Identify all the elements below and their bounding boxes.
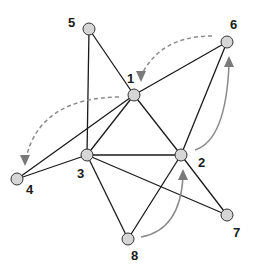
node-label-7: 7 bbox=[233, 225, 240, 240]
nodes-layer bbox=[11, 23, 233, 245]
edge-1-3 bbox=[87, 95, 134, 155]
arrowhead-icon bbox=[20, 155, 30, 166]
node-2 bbox=[175, 149, 187, 161]
edge-3-8 bbox=[87, 155, 128, 239]
node-6 bbox=[221, 36, 233, 48]
edge-1-2 bbox=[134, 95, 181, 155]
graph-svg: 12345678 bbox=[0, 0, 258, 273]
arrowhead-icon bbox=[178, 169, 188, 180]
edge-1-6 bbox=[134, 42, 227, 95]
arrowhead-icon bbox=[136, 71, 146, 82]
node-label-1: 1 bbox=[127, 71, 134, 86]
node-4 bbox=[11, 173, 23, 185]
arrows-layer bbox=[20, 36, 234, 237]
node-label-6: 6 bbox=[230, 17, 237, 32]
edges-layer bbox=[17, 29, 227, 239]
node-label-8: 8 bbox=[131, 248, 138, 263]
edge-2-8 bbox=[128, 155, 181, 239]
edge-3-7 bbox=[87, 155, 227, 215]
arrowhead-icon bbox=[224, 56, 234, 67]
node-5 bbox=[83, 23, 95, 35]
edge-6-2 bbox=[181, 42, 227, 155]
arrow-1-to-4 bbox=[26, 97, 119, 158]
node-label-5: 5 bbox=[68, 15, 75, 30]
node-label-4: 4 bbox=[26, 182, 34, 197]
node-1 bbox=[128, 89, 140, 101]
node-7 bbox=[221, 209, 233, 221]
node-label-2: 2 bbox=[198, 155, 205, 170]
node-8 bbox=[122, 233, 134, 245]
edge-5-3 bbox=[87, 29, 89, 155]
node-3 bbox=[81, 149, 93, 161]
graph-diagram: 12345678 bbox=[0, 0, 258, 273]
node-label-3: 3 bbox=[77, 166, 84, 181]
